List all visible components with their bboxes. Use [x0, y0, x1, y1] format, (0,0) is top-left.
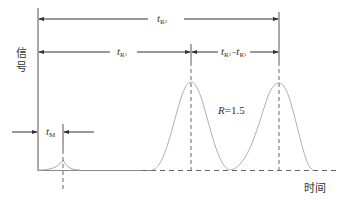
- y-axis-label-2: 号: [16, 62, 27, 73]
- resolution-label: R=1.5: [218, 105, 245, 116]
- y-axis-label-1: 信: [16, 48, 27, 59]
- tr2-label: tR2: [157, 13, 167, 26]
- x-axis-label: 时间: [304, 183, 326, 194]
- tr2-minus-tr1-label: tR2−tR1: [221, 46, 247, 59]
- peak-2: [230, 83, 313, 170]
- chromatogram-diagram: [0, 0, 345, 208]
- tm-label: tM: [46, 126, 55, 139]
- tr1-label: tR1: [117, 46, 127, 59]
- dead-time-peak: [38, 160, 80, 170]
